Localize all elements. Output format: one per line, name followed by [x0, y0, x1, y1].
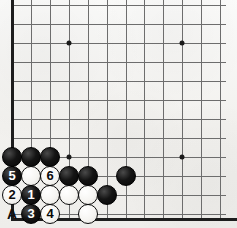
stone-move-number: 1: [27, 188, 34, 201]
stone-move-number: 6: [46, 169, 53, 182]
stone-black-8[interactable]: [116, 166, 136, 186]
stone-move-number: 2: [8, 188, 15, 201]
stone-white-move-6[interactable]: 6: [40, 166, 60, 186]
stone-black-move-1[interactable]: 1: [21, 185, 41, 205]
stone-black-0[interactable]: [2, 147, 22, 167]
stone-white-move-2[interactable]: 2: [2, 185, 22, 205]
stone-black-move-3[interactable]: 3: [21, 204, 41, 224]
stone-white-13[interactable]: [78, 185, 98, 205]
stone-white-12[interactable]: [59, 185, 79, 205]
go-board-diagram: A562134: [0, 0, 237, 228]
stone-move-number: 4: [46, 207, 53, 220]
stone-move-number: 5: [8, 169, 15, 182]
stone-white-11[interactable]: [40, 185, 60, 205]
stone-white-17[interactable]: [78, 204, 98, 224]
stone-layer: A562134: [0, 0, 237, 228]
stone-white-move-4[interactable]: 4: [40, 204, 60, 224]
stone-black-6[interactable]: [59, 166, 79, 186]
stone-black-14[interactable]: [97, 185, 117, 205]
stone-move-number: 3: [27, 207, 34, 220]
stone-black-1[interactable]: [21, 147, 41, 167]
point-label-a: A: [7, 207, 17, 221]
stone-black-2[interactable]: [40, 147, 60, 167]
stone-white-4[interactable]: [21, 166, 41, 186]
stone-black-7[interactable]: [78, 166, 98, 186]
stone-black-move-5[interactable]: 5: [2, 166, 22, 186]
